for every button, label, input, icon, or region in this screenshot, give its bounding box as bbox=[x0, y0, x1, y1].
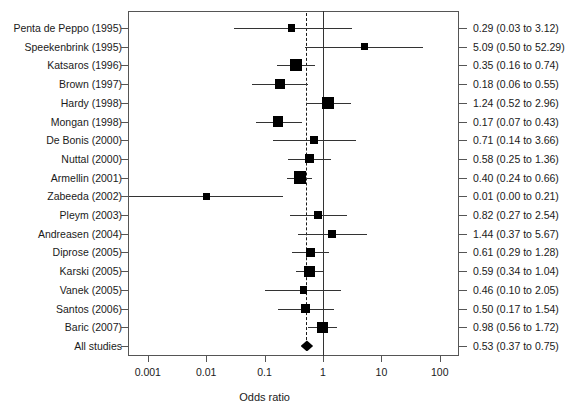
row-tick-left bbox=[121, 159, 129, 160]
row-tick-right bbox=[459, 290, 467, 291]
row-tick-right bbox=[459, 234, 467, 235]
row-tick-left bbox=[121, 196, 129, 197]
x-axis-title: Odds ratio bbox=[205, 392, 325, 403]
row-tick-left bbox=[121, 47, 129, 48]
row-tick-right bbox=[459, 346, 467, 347]
x-axis-tick bbox=[148, 356, 149, 362]
effect-estimate-text: 0.53 (0.37 to 0.75) bbox=[473, 341, 559, 352]
x-axis-tick bbox=[206, 356, 207, 362]
effect-estimate-text: 0.58 (0.25 to 1.36) bbox=[473, 154, 559, 165]
study-label: Armellin (2001) bbox=[0, 173, 122, 184]
row-tick-left bbox=[121, 28, 129, 29]
pooled-estimate-line bbox=[306, 13, 307, 345]
row-tick-right bbox=[459, 271, 467, 272]
effect-size-marker bbox=[294, 171, 306, 183]
effect-size-marker bbox=[305, 154, 314, 163]
row-tick-left bbox=[121, 215, 129, 216]
effect-size-marker bbox=[288, 24, 295, 31]
x-axis-tick-label: 0.001 bbox=[118, 367, 178, 378]
row-tick-right bbox=[459, 28, 467, 29]
study-label: Diprose (2005) bbox=[0, 247, 122, 258]
effect-estimate-text: 5.09 (0.50 to 52.29) bbox=[473, 42, 565, 53]
study-label: De Bonis (2000) bbox=[0, 135, 122, 146]
study-label: Katsaros (1996) bbox=[0, 60, 122, 71]
study-label: Vanek (2005) bbox=[0, 285, 122, 296]
row-tick-right bbox=[459, 140, 467, 141]
effect-size-marker bbox=[273, 116, 283, 126]
study-label: Baric (2007) bbox=[0, 322, 122, 333]
x-axis-tick bbox=[323, 356, 324, 362]
effect-size-marker bbox=[290, 59, 302, 71]
effect-estimate-text: 0.18 (0.06 to 0.55) bbox=[473, 79, 559, 90]
row-tick-right bbox=[459, 309, 467, 310]
row-tick-right bbox=[459, 103, 467, 104]
x-axis-tick-label: 10 bbox=[351, 367, 411, 378]
study-label: All studies bbox=[0, 341, 122, 352]
effect-estimate-text: 0.01 (0.00 to 0.21) bbox=[473, 191, 559, 202]
x-axis-tick bbox=[440, 356, 441, 362]
effect-estimate-text: 0.98 (0.56 to 1.72) bbox=[473, 322, 559, 333]
study-label: Andreasen (2004) bbox=[0, 229, 122, 240]
effect-size-marker bbox=[304, 266, 315, 277]
effect-size-marker bbox=[322, 97, 334, 109]
row-tick-right bbox=[459, 65, 467, 66]
effect-size-marker bbox=[301, 304, 309, 312]
row-tick-right bbox=[459, 252, 467, 253]
row-tick-left bbox=[121, 140, 129, 141]
row-tick-left bbox=[121, 84, 129, 85]
x-axis-tick-label: 0.1 bbox=[235, 367, 295, 378]
effect-size-marker bbox=[306, 248, 316, 258]
effect-estimate-text: 0.50 (0.17 to 1.54) bbox=[473, 304, 559, 315]
row-tick-right bbox=[459, 327, 467, 328]
effect-estimate-text: 0.29 (0.03 to 3.12) bbox=[473, 23, 559, 34]
effect-estimate-text: 0.82 (0.27 to 2.54) bbox=[473, 210, 559, 221]
row-tick-left bbox=[121, 271, 129, 272]
row-tick-right bbox=[459, 159, 467, 160]
effect-estimate-text: 0.59 (0.34 to 1.04) bbox=[473, 266, 559, 277]
effect-size-marker bbox=[317, 322, 328, 333]
effect-size-marker bbox=[328, 230, 336, 238]
effect-size-marker bbox=[314, 211, 322, 219]
effect-size-marker bbox=[203, 193, 210, 200]
effect-estimate-text: 0.40 (0.24 to 0.66) bbox=[473, 173, 559, 184]
row-tick-left bbox=[121, 309, 129, 310]
study-label: Hardy (1998) bbox=[0, 98, 122, 109]
row-tick-left bbox=[121, 327, 129, 328]
x-axis-tick-label: 0.01 bbox=[176, 367, 236, 378]
study-label: Karski (2005) bbox=[0, 266, 122, 277]
effect-estimate-text: 0.46 (0.10 to 2.05) bbox=[473, 285, 559, 296]
effect-estimate-text: 0.61 (0.29 to 1.28) bbox=[473, 247, 559, 258]
row-tick-left bbox=[121, 122, 129, 123]
x-axis-tick-label: 100 bbox=[410, 367, 470, 378]
row-tick-left bbox=[121, 178, 129, 179]
effect-estimate-text: 0.17 (0.07 to 0.43) bbox=[473, 117, 559, 128]
study-label: Santos (2006) bbox=[0, 304, 122, 315]
row-tick-right bbox=[459, 178, 467, 179]
study-label: Zabeeda (2002) bbox=[0, 191, 122, 202]
null-effect-line bbox=[323, 11, 324, 356]
effect-estimate-text: 1.24 (0.52 to 2.96) bbox=[473, 98, 559, 109]
row-tick-left bbox=[121, 252, 129, 253]
row-tick-right bbox=[459, 215, 467, 216]
row-tick-left bbox=[121, 290, 129, 291]
effect-size-marker bbox=[361, 43, 368, 50]
effect-size-marker bbox=[275, 79, 285, 89]
x-axis-tick bbox=[381, 356, 382, 362]
study-label: Pleym (2003) bbox=[0, 210, 122, 221]
study-label: Nuttal (2000) bbox=[0, 154, 122, 165]
effect-size-marker bbox=[300, 286, 308, 294]
row-tick-right bbox=[459, 47, 467, 48]
row-tick-right bbox=[459, 122, 467, 123]
row-tick-left bbox=[121, 103, 129, 104]
forest-plot: Penta de Peppo (1995)0.29 (0.03 to 3.12)… bbox=[0, 0, 566, 419]
effect-size-marker bbox=[310, 136, 318, 144]
effect-estimate-text: 1.44 (0.37 to 5.67) bbox=[473, 229, 559, 240]
study-label: Mongan (1998) bbox=[0, 117, 122, 128]
study-label: Speekenbrink (1995) bbox=[0, 42, 122, 53]
effect-estimate-text: 0.35 (0.16 to 0.74) bbox=[473, 60, 559, 71]
row-tick-right bbox=[459, 196, 467, 197]
x-axis-tick-label: 1 bbox=[293, 367, 353, 378]
row-tick-left bbox=[121, 346, 129, 347]
row-tick-left bbox=[121, 234, 129, 235]
effect-estimate-text: 0.71 (0.14 to 3.66) bbox=[473, 135, 559, 146]
